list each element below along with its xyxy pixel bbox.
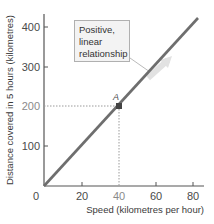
y-axis-title: Distance covered in 5 hours (kilometres) [4, 15, 15, 185]
y-tick-label-400: 400 [22, 21, 40, 33]
x-tick-label-60: 60 [150, 190, 162, 202]
annotation-box: Positive, linear relationship [74, 20, 130, 62]
x-tick-label-80: 80 [187, 190, 199, 202]
origin-label: 0 [33, 190, 39, 202]
annotation-line-1: Positive, [79, 24, 125, 36]
annotation-line-2: linear [79, 36, 125, 48]
point-a-label: A [112, 92, 119, 102]
x-tick-label-40: 40 [113, 190, 125, 202]
x-axis-title: Speed (kilometres per hour) [86, 204, 204, 215]
y-tick-label-300: 300 [22, 61, 40, 73]
annotation-pointer [130, 58, 150, 72]
x-tick-label-20: 20 [76, 190, 88, 202]
point-a-marker [116, 103, 122, 109]
y-tick-label-200: 200 [22, 100, 40, 112]
annotation-line-3: relationship [79, 48, 125, 60]
y-tick-label-100: 100 [22, 140, 40, 152]
